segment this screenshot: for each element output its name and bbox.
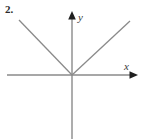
graph-left-branch xyxy=(19,20,72,75)
x-axis-label: x xyxy=(123,60,129,72)
x-axis-arrow-icon xyxy=(130,71,139,79)
y-axis-arrow-icon xyxy=(68,11,76,20)
y-axis-label: y xyxy=(77,11,83,23)
coordinate-plot: y x xyxy=(0,0,144,140)
figure-container: 2. y x xyxy=(0,0,144,140)
graph-right-branch xyxy=(72,21,130,75)
